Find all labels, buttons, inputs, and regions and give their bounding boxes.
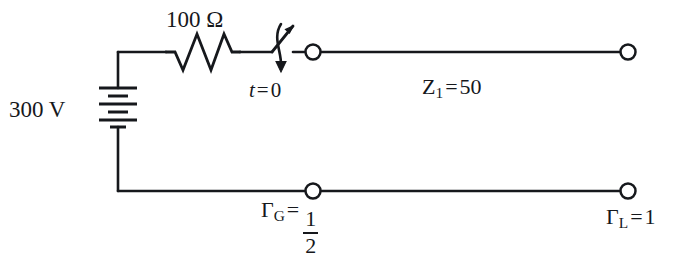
switch-time-equals: = bbox=[255, 78, 271, 102]
resistor-value-label: 100 Ω bbox=[166, 8, 223, 31]
gamma-g-symbol: Γ bbox=[261, 197, 274, 222]
gamma-g-subscript: G bbox=[274, 207, 285, 224]
terminal-lower-left bbox=[306, 184, 321, 199]
switch-closure-arrow-curve bbox=[277, 24, 281, 66]
gamma-g-equals: = bbox=[285, 197, 301, 222]
line-impedance-value: 50 bbox=[460, 74, 482, 99]
switch-time-label: t=0 bbox=[249, 80, 281, 101]
line-impedance-symbol: Z bbox=[422, 74, 435, 99]
gamma-g-denominator: 2 bbox=[303, 235, 318, 257]
switch-time-value: 0 bbox=[271, 78, 282, 102]
circuit-schematic-drawing bbox=[0, 0, 689, 260]
gamma-g-numerator: 1 bbox=[303, 208, 318, 230]
terminal-upper-right bbox=[621, 45, 636, 60]
gamma-g-fraction: 12 bbox=[303, 208, 318, 257]
gamma-l-equals: = bbox=[628, 204, 644, 229]
switch-closure-arrowhead-icon bbox=[276, 62, 286, 73]
load-reflection-coefficient-label: ΓL=1 bbox=[606, 206, 656, 231]
source-voltage-label: 300 V bbox=[9, 98, 65, 121]
gamma-l-value: 1 bbox=[645, 204, 656, 229]
source-reflection-coefficient-label: ΓG=12 bbox=[261, 199, 318, 257]
terminal-upper-left bbox=[306, 45, 321, 60]
line-impedance-subscript: 1 bbox=[435, 84, 443, 101]
battery-symbol bbox=[99, 88, 137, 127]
line-impedance-label: Z1=50 bbox=[422, 76, 482, 101]
line-impedance-equals: = bbox=[443, 74, 459, 99]
gamma-l-symbol: Γ bbox=[606, 204, 619, 229]
circuit-diagram-canvas: 100 Ω 300 V t=0 Z1=50 ΓG=12 ΓL=1 bbox=[0, 0, 689, 260]
switch-time-variable: t bbox=[249, 78, 255, 102]
terminal-lower-right bbox=[621, 184, 636, 199]
gamma-l-subscript: L bbox=[619, 214, 628, 231]
resistor-zigzag-symbol bbox=[166, 34, 240, 70]
